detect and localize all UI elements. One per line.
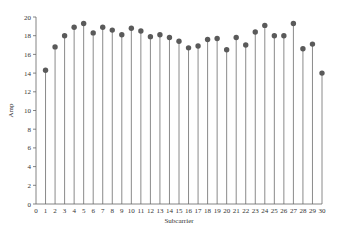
stem-point — [272, 33, 277, 204]
stem-marker — [310, 41, 315, 46]
stem-point — [52, 44, 57, 204]
y-tick-label: 8 — [28, 126, 32, 134]
x-axis-label: Subcarrier — [164, 217, 194, 225]
stem-point — [310, 41, 315, 204]
stem-point — [281, 33, 286, 204]
stem-point — [234, 35, 239, 204]
x-tick-label: 22 — [242, 207, 250, 215]
x-tick-label: 19 — [214, 207, 222, 215]
x-tick-label: 28 — [299, 207, 307, 215]
stem-series — [43, 21, 325, 204]
stem-marker — [195, 43, 200, 48]
x-tick-label: 24 — [261, 207, 269, 215]
x-tick-label: 10 — [128, 207, 136, 215]
stem-point — [62, 33, 67, 204]
stem-point — [81, 21, 86, 204]
x-tick-label: 20 — [223, 207, 231, 215]
stem-point — [43, 68, 48, 204]
x-tick-label: 6 — [91, 207, 95, 215]
stem-marker — [119, 32, 124, 37]
y-tick-label: 14 — [24, 70, 32, 78]
stem-point — [157, 32, 162, 204]
y-tick-label: 4 — [28, 163, 32, 171]
x-tick-label: 12 — [147, 207, 155, 215]
x-axis-ticks: 0123456789101112131415161718192021222324… — [34, 207, 326, 215]
stem-point — [129, 26, 134, 204]
stem-marker — [167, 35, 172, 40]
x-tick-label: 27 — [290, 207, 298, 215]
stem-point — [319, 70, 324, 204]
stem-marker — [186, 45, 191, 50]
stem-point — [262, 23, 267, 204]
y-tick-label: 16 — [24, 51, 32, 59]
stem-point — [186, 45, 191, 204]
stem-point — [110, 27, 115, 204]
stem-marker — [262, 23, 267, 28]
x-tick-label: 15 — [176, 207, 184, 215]
stem-marker — [91, 30, 96, 35]
stem-point — [138, 28, 143, 204]
x-tick-label: 3 — [63, 207, 67, 215]
stem-marker — [176, 39, 181, 44]
stem-marker — [272, 33, 277, 38]
x-tick-label: 23 — [252, 207, 260, 215]
stem-marker — [205, 37, 210, 42]
y-tick-label: 2 — [28, 182, 32, 190]
stem-marker — [291, 21, 296, 26]
stem-marker — [100, 25, 105, 30]
stem-point — [195, 43, 200, 204]
stem-point — [100, 25, 105, 204]
stem-point — [253, 29, 258, 204]
x-tick-label: 5 — [82, 207, 86, 215]
x-tick-label: 2 — [53, 207, 57, 215]
y-tick-label: 0 — [28, 201, 32, 209]
stem-marker — [43, 68, 48, 73]
y-tick-label: 10 — [24, 107, 32, 115]
stem-marker — [281, 33, 286, 38]
stem-point — [119, 32, 124, 204]
stem-marker — [129, 26, 134, 31]
y-tick-label: 6 — [28, 144, 32, 152]
x-tick-label: 7 — [101, 207, 105, 215]
y-tick-label: 12 — [24, 88, 32, 96]
stem-chart: 02468101214161820 0123456789101112131415… — [0, 0, 340, 238]
x-tick-label: 17 — [195, 207, 203, 215]
x-tick-label: 21 — [233, 207, 241, 215]
stem-marker — [300, 46, 305, 51]
x-tick-label: 0 — [34, 207, 38, 215]
stem-point — [148, 34, 153, 204]
x-tick-label: 9 — [120, 207, 124, 215]
stem-marker — [71, 25, 76, 30]
x-tick-label: 30 — [319, 207, 327, 215]
x-tick-label: 4 — [72, 207, 76, 215]
stem-point — [214, 36, 219, 204]
stem-marker — [253, 29, 258, 34]
x-tick-label: 18 — [204, 207, 212, 215]
stem-marker — [62, 33, 67, 38]
stem-point — [91, 30, 96, 204]
stem-marker — [224, 47, 229, 52]
y-tick-label: 18 — [24, 32, 32, 40]
stem-point — [167, 35, 172, 204]
stem-point — [71, 25, 76, 204]
stem-point — [291, 21, 296, 204]
stem-marker — [138, 28, 143, 33]
y-axis-ticks: 02468101214161820 — [24, 14, 36, 209]
stem-marker — [214, 36, 219, 41]
x-tick-label: 26 — [280, 207, 288, 215]
x-tick-label: 16 — [185, 207, 193, 215]
stem-point — [224, 47, 229, 204]
stem-point — [243, 42, 248, 204]
stem-marker — [234, 35, 239, 40]
x-tick-label: 13 — [156, 207, 164, 215]
stem-marker — [148, 34, 153, 39]
x-tick-label: 11 — [137, 207, 144, 215]
stem-marker — [157, 32, 162, 37]
stem-point — [300, 46, 305, 204]
stem-point — [176, 39, 181, 204]
stem-marker — [52, 44, 57, 49]
stem-marker — [243, 42, 248, 47]
x-tick-label: 14 — [166, 207, 174, 215]
stem-marker — [81, 21, 86, 26]
stem-point — [205, 37, 210, 204]
